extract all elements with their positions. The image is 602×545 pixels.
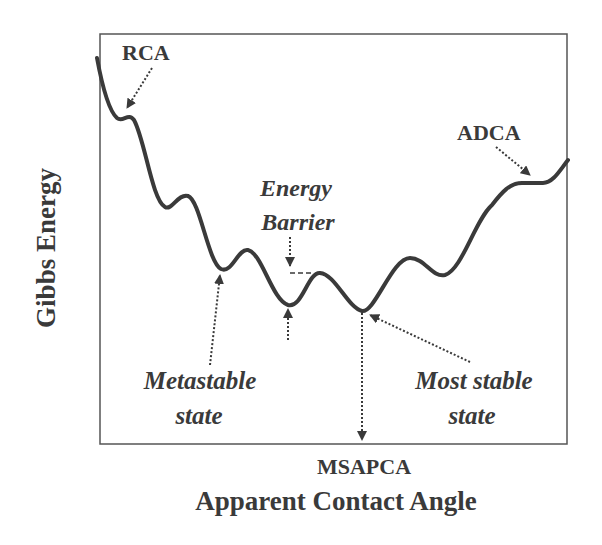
most-stable-label-line2: state	[447, 402, 495, 429]
energy-barrier-label-line2: Barrier	[260, 209, 335, 235]
energy-curve	[97, 58, 568, 311]
x-axis-label: Apparent Contact Angle	[195, 486, 477, 516]
y-axis-label: Gibbs Energy	[31, 168, 61, 328]
metastable-arrow	[210, 275, 220, 365]
most-stable-label-line1: Most stable	[414, 367, 532, 394]
rca-arrow	[127, 68, 152, 108]
most-stable-arrow	[370, 315, 470, 362]
rca-label: RCA	[122, 40, 170, 65]
msapca-label: MSAPCA	[317, 454, 411, 479]
metastable-label-line2: state	[174, 402, 222, 429]
adca-arrow	[496, 147, 530, 175]
gibbs-energy-diagram: RCA ADCA Energy Barrier Metastable state…	[0, 0, 602, 545]
energy-barrier-label-line1: Energy	[259, 175, 332, 201]
metastable-label-line1: Metastable	[143, 367, 257, 394]
adca-label: ADCA	[457, 120, 521, 145]
